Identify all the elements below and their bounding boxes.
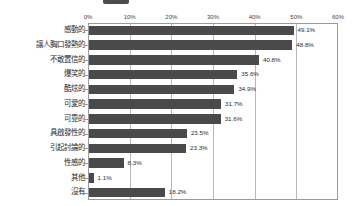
category-label: 可愛的 xyxy=(64,97,85,112)
category-label: 具啟發性的 xyxy=(50,126,85,141)
axis-tick-mark xyxy=(84,163,88,164)
category-label: 讓人胸口發熱的 xyxy=(36,38,85,53)
bar-value-label: 48.8% xyxy=(296,38,314,53)
bar-value-label: 8.3% xyxy=(128,156,142,171)
category-label: 酷炫的 xyxy=(64,82,85,97)
chart-row: 引起討論的23.3% xyxy=(0,141,353,156)
bar xyxy=(89,55,259,65)
bar xyxy=(89,40,292,50)
axis-tick-mark xyxy=(84,193,88,194)
axis-tick-mark xyxy=(84,45,88,46)
axis-tick-mark xyxy=(84,30,88,31)
axis-tick-mark xyxy=(84,148,88,149)
bar xyxy=(89,144,186,154)
bar xyxy=(89,99,221,109)
bar xyxy=(89,26,294,36)
bar xyxy=(89,173,94,183)
bar xyxy=(89,129,187,139)
category-label: 性感的 xyxy=(64,156,85,171)
category-label: 不敢置信的 xyxy=(50,53,85,68)
bar-value-label: 18.2% xyxy=(169,185,187,200)
category-label: 可靠的 xyxy=(64,112,85,127)
bar xyxy=(89,158,124,168)
axis-tick-mark xyxy=(84,60,88,61)
bar xyxy=(89,70,237,80)
category-label: 沒有 xyxy=(71,185,85,200)
chart-row: 讓人胸口發熱的48.8% xyxy=(0,38,353,53)
x-axis-tick-label: 60% xyxy=(332,13,344,22)
bar-value-label: 40.8% xyxy=(263,53,281,68)
axis-tick-mark xyxy=(84,178,88,179)
category-label: 引起討論的 xyxy=(50,141,85,156)
bar-value-label: 23.3% xyxy=(190,141,208,156)
x-axis-tick-label: 0% xyxy=(84,13,93,22)
chart-rows: 感動的49.1%讓人胸口發熱的48.8%不敢置信的40.8%爆笑的35.6%酷炫… xyxy=(0,23,353,200)
bar-value-label: 31.6% xyxy=(225,112,243,127)
chart-row: 可愛的31.7% xyxy=(0,97,353,112)
axis-tick-mark xyxy=(84,134,88,135)
chart-title-strip xyxy=(0,0,353,9)
category-label: 爆笑的 xyxy=(64,67,85,82)
chart-row: 爆笑的35.6% xyxy=(0,67,353,82)
axis-tick-mark xyxy=(84,89,88,90)
chart-row: 性感的8.3% xyxy=(0,156,353,171)
x-axis-tick-label: 20% xyxy=(165,13,177,22)
chart-row: 不敢置信的40.8% xyxy=(0,53,353,68)
bar-value-label: 49.1% xyxy=(298,23,316,38)
bar xyxy=(89,85,234,95)
title-badge-icon xyxy=(103,0,129,4)
bar-value-label: 34.9% xyxy=(238,82,256,97)
chart-row: 感動的49.1% xyxy=(0,23,353,38)
bar-value-label: 31.7% xyxy=(225,97,243,112)
x-axis-tick-label: 10% xyxy=(124,13,136,22)
bar xyxy=(89,114,221,124)
x-axis-tick-label: 40% xyxy=(249,13,261,22)
bar-value-label: 1.1% xyxy=(98,171,112,186)
chart-row: 可靠的31.6% xyxy=(0,112,353,127)
chart-row: 其他1.1% xyxy=(0,171,353,186)
chart-row: 沒有18.2% xyxy=(0,185,353,200)
bar-value-label: 23.5% xyxy=(191,126,209,141)
x-axis-tick-label: 50% xyxy=(290,13,302,22)
axis-tick-mark xyxy=(84,75,88,76)
axis-tick-mark xyxy=(84,104,88,105)
category-label: 感動的 xyxy=(64,23,85,38)
axis-tick-mark xyxy=(84,119,88,120)
chart-row: 酷炫的34.9% xyxy=(0,82,353,97)
x-axis-tick-labels: 0%10%20%30%40%50%60% xyxy=(0,13,353,22)
chart-row: 具啟發性的23.5% xyxy=(0,126,353,141)
bar-chart: 0%10%20%30%40%50%60% 感動的49.1%讓人胸口發熱的48.8… xyxy=(0,0,353,206)
bar xyxy=(89,188,165,198)
x-axis-tick-label: 30% xyxy=(207,13,219,22)
bar-value-label: 35.6% xyxy=(241,67,259,82)
category-label: 其他 xyxy=(71,171,85,186)
